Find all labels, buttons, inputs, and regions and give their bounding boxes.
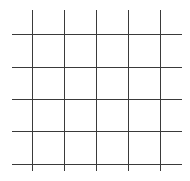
horizontal-grid-line-4: [12, 131, 182, 132]
horizontal-grid-line-5: [12, 164, 182, 165]
horizontal-grid-line-1: [12, 34, 182, 35]
horizontal-grid-line-2: [12, 67, 182, 68]
grid-diagram: [0, 0, 190, 181]
horizontal-grid-line-3: [12, 99, 182, 100]
